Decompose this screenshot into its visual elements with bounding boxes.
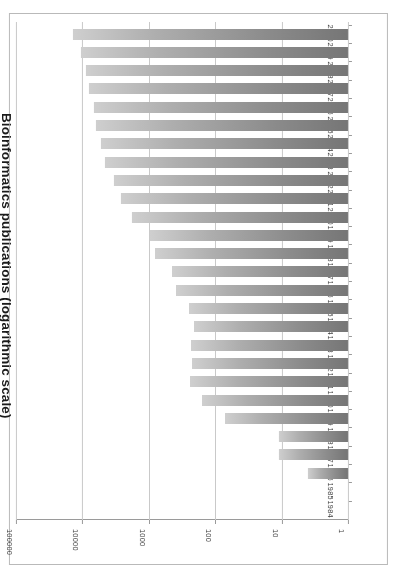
bar-2010 xyxy=(73,29,348,40)
bar-1999 xyxy=(150,230,348,241)
x-tick-mark-100000 xyxy=(16,520,17,524)
y-tick-mark-1993 xyxy=(349,336,352,337)
x-tick-label-100000: 100000 xyxy=(5,529,14,555)
bar-2006 xyxy=(94,102,348,113)
bar-2007 xyxy=(89,83,348,94)
bar-1993 xyxy=(191,340,348,351)
x-tick-mark-10000 xyxy=(82,520,83,524)
y-tick-mark-1985 xyxy=(349,482,352,483)
y-tick-mark-1995 xyxy=(349,299,352,300)
x-axis-line xyxy=(16,519,349,520)
rotated-page-canvas: 110100100010000100000 198419851986198719… xyxy=(0,0,397,578)
y-tick-mark-2003 xyxy=(349,153,352,154)
y-tick-mark-1987 xyxy=(349,446,352,447)
y-tick-mark-1984 xyxy=(349,501,352,502)
x-tick-label-1: 1 xyxy=(337,529,346,533)
y-tick-mark-2010 xyxy=(349,25,352,26)
y-tick-mark-1999 xyxy=(349,226,352,227)
y-tick-mark-1990 xyxy=(349,391,352,392)
bar-1994 xyxy=(195,321,349,332)
bar-chart: 110100100010000100000 198419851986198719… xyxy=(0,0,397,578)
y-tick-mark-1996 xyxy=(349,281,352,282)
bar-2001 xyxy=(121,193,348,204)
bar-2004 xyxy=(101,138,348,149)
x-tick-mark-1 xyxy=(348,520,349,524)
y-tick-mark-2006 xyxy=(349,98,352,99)
bar-1992 xyxy=(192,358,348,369)
x-tick-label-100: 100 xyxy=(204,529,213,542)
bar-1996 xyxy=(176,285,348,296)
bar-1987 xyxy=(279,449,348,460)
y-tick-mark-1991 xyxy=(349,373,352,374)
bar-2002 xyxy=(114,175,348,186)
bar-1995 xyxy=(189,303,348,314)
bar-1989 xyxy=(226,413,349,424)
gridline-1000 xyxy=(149,22,150,520)
x-tick-mark-10 xyxy=(282,520,283,524)
y-tick-mark-1988 xyxy=(349,428,352,429)
bar-1997 xyxy=(172,266,348,277)
x-tick-label-1000: 1000 xyxy=(138,529,147,547)
bar-2009 xyxy=(81,47,348,58)
gridline-10000 xyxy=(82,22,83,520)
x-tick-label-10: 10 xyxy=(271,529,280,538)
bar-1998 xyxy=(155,248,348,259)
x-tick-label-10000: 10000 xyxy=(71,529,80,551)
y-tick-mark-2002 xyxy=(349,171,352,172)
y-tick-mark-2008 xyxy=(349,62,352,63)
y-tick-mark-2007 xyxy=(349,80,352,81)
y-tick-mark-1997 xyxy=(349,263,352,264)
bar-1988 xyxy=(279,431,348,442)
bar-2003 xyxy=(105,157,348,168)
y-tick-mark-2001 xyxy=(349,190,352,191)
bar-2008 xyxy=(86,65,348,76)
chart-title: Bioinformatics publications (logarithmic… xyxy=(0,113,14,419)
bar-1991 xyxy=(190,376,348,387)
y-tick-label-1985: 1985 xyxy=(327,482,336,500)
gridline-100000 xyxy=(16,22,17,520)
y-tick-mark-1986 xyxy=(349,464,352,465)
y-tick-mark-1989 xyxy=(349,409,352,410)
bar-2000 xyxy=(132,212,348,223)
y-tick-mark-1998 xyxy=(349,245,352,246)
y-tick-mark-2005 xyxy=(349,116,352,117)
y-tick-mark-2000 xyxy=(349,208,352,209)
bar-2005 xyxy=(96,120,348,131)
bar-1990 xyxy=(202,395,348,406)
x-tick-mark-100 xyxy=(215,520,216,524)
y-tick-mark-2004 xyxy=(349,135,352,136)
x-tick-mark-1000 xyxy=(149,520,150,524)
y-tick-mark-1992 xyxy=(349,354,352,355)
bar-1986 xyxy=(308,468,348,479)
y-tick-mark-1994 xyxy=(349,318,352,319)
y-tick-mark-2009 xyxy=(349,43,352,44)
y-tick-label-1984: 1984 xyxy=(327,501,336,519)
